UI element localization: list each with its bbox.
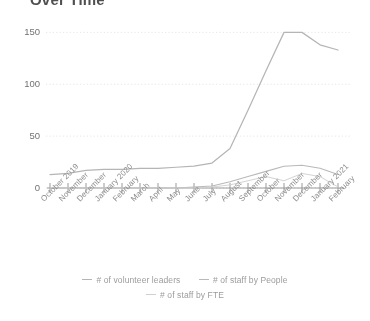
legend-item-volunteer-leaders[interactable]: # of volunteer leaders — [82, 273, 180, 287]
data-series-group — [50, 32, 338, 188]
legend-swatch-icon — [199, 279, 209, 280]
series-line — [50, 32, 338, 174]
legend-item-staff-by-people[interactable]: # of staff by People — [199, 273, 288, 287]
chart-legend: # of volunteer leaders # of staff by Peo… — [0, 272, 370, 302]
y-axis-tick-label: 50 — [14, 130, 40, 141]
legend-label: # of staff by FTE — [160, 290, 224, 300]
gridlines — [46, 32, 352, 188]
y-axis-tick-label: 100 — [14, 78, 40, 89]
y-axis-tick-label: 0 — [14, 182, 40, 193]
chart-container: Over Time 050100150 October 2019November… — [0, 0, 370, 321]
legend-row-primary: # of volunteer leaders # of staff by Peo… — [0, 272, 370, 287]
legend-item-staff-by-fte[interactable]: # of staff by FTE — [146, 288, 224, 302]
y-axis-tick-label: 150 — [14, 26, 40, 37]
legend-swatch-icon — [146, 294, 156, 295]
legend-label: # of staff by People — [213, 275, 288, 285]
legend-label: # of volunteer leaders — [96, 275, 180, 285]
legend-row-secondary: # of staff by FTE — [0, 287, 370, 302]
legend-swatch-icon — [82, 279, 92, 280]
